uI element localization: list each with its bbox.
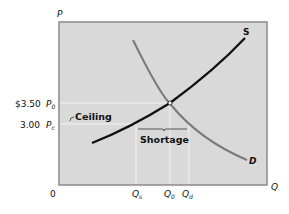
y-axis-label: P — [57, 9, 63, 19]
shortage-label: Shortage — [140, 134, 189, 145]
p0-symbol: P0 — [46, 99, 55, 110]
pc-symbol: Pc — [46, 120, 55, 131]
price-ceiling-diagram: P Q 0 S D $3.50 P0 3.00 Pc Qs Q0 Qd Ceil… — [0, 0, 289, 214]
demand-label: D — [249, 156, 257, 166]
p0-value: $3.50 — [15, 99, 41, 109]
qs-label: Qs — [132, 189, 142, 200]
origin-label: 0 — [50, 189, 56, 199]
qd-label: Qd — [182, 189, 193, 200]
equilibrium-point — [168, 101, 172, 105]
ceiling-label: Ceiling — [75, 111, 112, 122]
pc-value: 3.00 — [20, 120, 40, 130]
supply-label: S — [243, 27, 249, 37]
q0-label: Q0 — [164, 189, 175, 200]
x-axis-label: Q — [271, 182, 278, 192]
